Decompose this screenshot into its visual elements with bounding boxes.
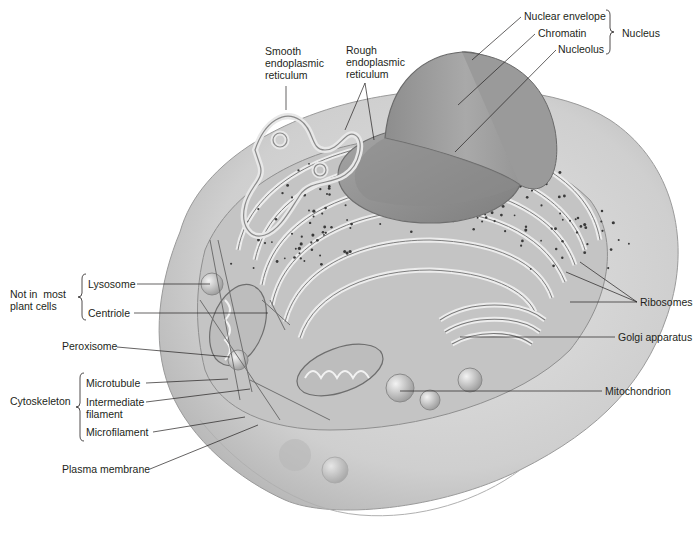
label-mitochondrion: Mitochondrion: [605, 385, 671, 397]
label-cytoskeleton: Cytoskeleton: [10, 395, 71, 407]
label-microtubule: Microtubule: [86, 377, 140, 389]
label-rough-er: Rough endoplasmic reticulum: [346, 44, 405, 80]
cell-diagram: Nuclear envelopeChromatinNucleolusNucleu…: [0, 0, 698, 543]
label-smooth-er: Smooth endoplasmic reticulum: [265, 45, 324, 81]
label-ribosomes: Ribosomes: [640, 296, 693, 308]
label-golgi-apparatus: Golgi apparatus: [618, 331, 692, 343]
label-centriole: Centriole: [88, 307, 130, 319]
label-nucleolus: Nucleolus: [558, 43, 604, 55]
bracket-not-in-most-plant-cells: [78, 274, 86, 320]
label-plasma-membrane: Plasma membrane: [62, 463, 150, 475]
label-chromatin: Chromatin: [538, 27, 586, 39]
label-lysosome: Lysosome: [88, 278, 135, 290]
label-nuclear-envelope: Nuclear envelope: [524, 10, 606, 22]
label-intermediate-filament: Intermediate filament: [86, 396, 144, 420]
label-microfilament: Microfilament: [86, 426, 148, 438]
label-nucleus: Nucleus: [622, 27, 660, 39]
bracket-nucleus: [606, 10, 614, 54]
label-peroxisome: Peroxisome: [62, 340, 117, 352]
label-not-in-most-plant-cells: Not in most plant cells: [10, 288, 66, 312]
bracket-cytoskeleton: [76, 373, 84, 441]
cell-illustration: [0, 0, 698, 543]
